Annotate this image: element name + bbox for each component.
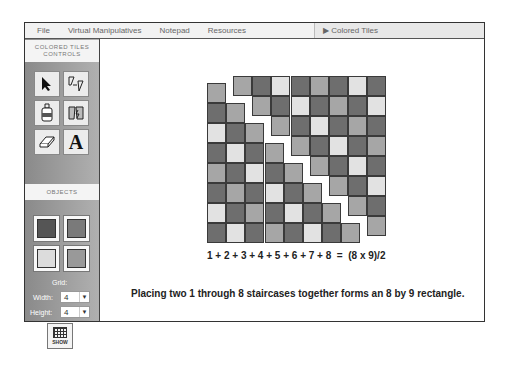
paint-tool-button[interactable] — [34, 100, 60, 126]
eraser-tool-button[interactable] — [34, 129, 60, 155]
medium-dark-tile-object[interactable] — [63, 215, 90, 242]
grid-height-label: Height: — [30, 309, 52, 316]
caption-text: Placing two 1 through 8 staircases toget… — [131, 288, 464, 299]
menu-resources[interactable]: Resources — [208, 26, 246, 35]
menubar: File Virtual Manipulatives Notepad Resou… — [25, 23, 484, 39]
controls-header: COLORED TILES CONTROLS — [25, 40, 99, 62]
medium-tile-object[interactable] — [63, 245, 90, 272]
grid-icon — [53, 327, 67, 338]
medium-tile-swatch — [67, 249, 86, 268]
paint-bottle-icon — [39, 103, 55, 123]
objects-header: OBJECTS — [25, 184, 99, 200]
light-tile-object[interactable] — [33, 245, 60, 272]
show-grid-button[interactable]: SHOW — [47, 323, 73, 349]
menu-notepad[interactable]: Notepad — [160, 26, 190, 35]
grid-height-select[interactable]: 4 ▼ — [60, 306, 90, 318]
duplicate-icon — [67, 104, 85, 122]
rotate-flip-icon — [67, 75, 85, 93]
light-tile-swatch — [37, 249, 56, 268]
dark-tile-object[interactable] — [33, 215, 60, 242]
grid-width-select[interactable]: 4 ▼ — [60, 291, 90, 303]
select-tool-button[interactable] — [34, 71, 60, 97]
text-tool-button[interactable]: A — [63, 129, 89, 155]
grid-width-label: Width: — [33, 294, 53, 301]
sidebar: COLORED TILES CONTROLS A OBJECTS Grid: W… — [25, 39, 100, 321]
window-title: ▶ Colored Tiles — [314, 23, 484, 38]
text-icon: A — [69, 131, 83, 154]
eraser-icon — [38, 135, 56, 149]
show-grid-label: SHOW — [52, 339, 68, 345]
grid-height-value: 4 — [64, 308, 68, 317]
grid-label: Grid: — [52, 279, 67, 286]
rotate-tool-button[interactable] — [63, 71, 89, 97]
menu-virtual-manipulatives[interactable]: Virtual Manipulatives — [68, 26, 142, 35]
chevron-down-icon: ▼ — [79, 307, 89, 317]
chevron-down-icon: ▼ — [79, 292, 89, 302]
menu-file[interactable]: File — [37, 26, 50, 35]
arrow-cursor-icon — [40, 76, 54, 92]
dark-tile-swatch — [37, 219, 56, 238]
medium-dark-tile-swatch — [67, 219, 86, 238]
duplicate-tool-button[interactable] — [63, 100, 89, 126]
app-window: File Virtual Manipulatives Notepad Resou… — [24, 22, 485, 322]
sum-equation: 1 + 2 + 3 + 4 + 5 + 6 + 7 + 8 = (8 x 9)/… — [207, 250, 385, 261]
grid-width-value: 4 — [64, 293, 68, 302]
